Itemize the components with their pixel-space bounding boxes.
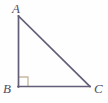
geometry-figure: A B C	[0, 0, 108, 103]
vertex-label-a: A	[12, 2, 20, 15]
vertex-label-c: C	[94, 82, 103, 95]
triangle-side-ca	[19, 16, 91, 87]
right-angle-marker	[18, 77, 28, 87]
vertex-label-b: B	[3, 82, 11, 95]
